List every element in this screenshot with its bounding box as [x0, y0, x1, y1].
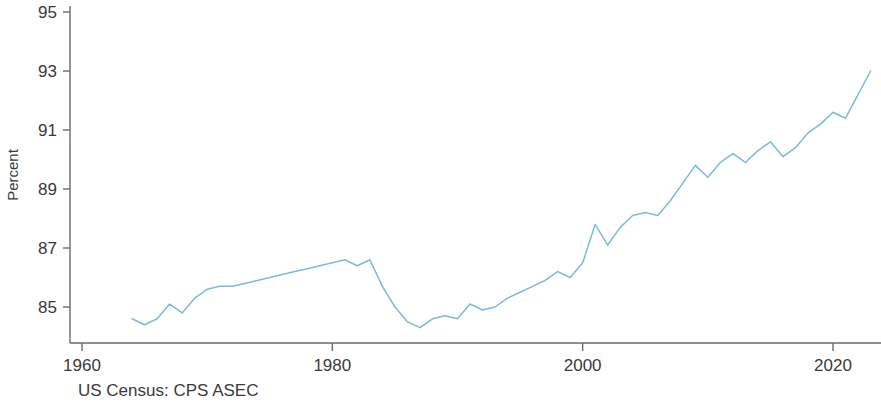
y-tick-label: 87	[38, 239, 57, 258]
x-tick-label: 2000	[564, 356, 602, 375]
x-axis-tick-labels: 1960198020002020	[63, 356, 852, 375]
y-axis-ticks	[63, 12, 70, 307]
x-tick-label: 1980	[313, 356, 351, 375]
y-tick-label: 91	[38, 121, 57, 140]
chart-canvas: 858789919395 1960198020002020 Percent US…	[0, 0, 881, 407]
y-tick-label: 85	[38, 298, 57, 317]
y-tick-label: 93	[38, 62, 57, 81]
y-tick-label: 95	[38, 3, 57, 22]
x-tick-label: 1960	[63, 356, 101, 375]
y-axis-tick-labels: 858789919395	[38, 3, 57, 317]
source-caption: US Census: CPS ASEC	[78, 381, 258, 400]
y-axis-title: Percent	[4, 148, 21, 201]
x-axis-ticks	[82, 343, 833, 351]
data-series-line	[132, 71, 870, 328]
y-tick-label: 89	[38, 180, 57, 199]
line-chart: 858789919395 1960198020002020 Percent US…	[0, 0, 881, 407]
x-tick-label: 2020	[814, 356, 852, 375]
